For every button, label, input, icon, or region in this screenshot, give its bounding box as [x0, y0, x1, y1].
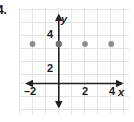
- coordinate-plane: y 4 2 –2 2 4 x: [19, 8, 129, 114]
- x-tick-label-2: 2: [82, 86, 88, 97]
- y-axis-name-label: y: [61, 14, 67, 25]
- data-point: [30, 41, 36, 47]
- data-point: [56, 41, 62, 47]
- y-tick-label-4: 4: [47, 29, 53, 40]
- graph-figure: 4.: [0, 0, 134, 122]
- problem-number-label: 4.: [0, 4, 7, 16]
- data-point: [82, 41, 88, 47]
- data-points: [19, 8, 129, 114]
- x-tick-label-neg2: –2: [24, 86, 36, 97]
- y-tick-label-2: 2: [47, 63, 53, 74]
- x-tick-label-4: 4: [109, 86, 115, 97]
- x-axis-name-label: x: [118, 87, 124, 98]
- data-point: [108, 41, 114, 47]
